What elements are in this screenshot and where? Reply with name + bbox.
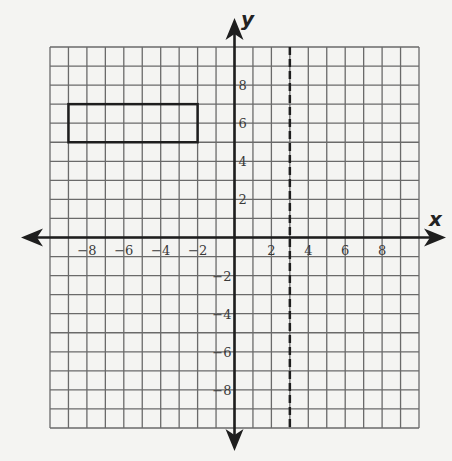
x-tick-label: 6 <box>341 243 349 258</box>
x-tick-label: −8 <box>77 243 96 258</box>
x-tick-label: 4 <box>304 243 312 258</box>
x-tick-label: −6 <box>114 243 133 258</box>
x-tick-label: −2 <box>188 243 207 258</box>
x-tick-label: −4 <box>151 243 170 258</box>
x-tick-label: 8 <box>378 243 386 258</box>
y-tick-label: −2 <box>212 269 231 284</box>
y-tick-label: 4 <box>239 154 247 169</box>
coordinate-plane: x y −8−6−4−224688642−2−4−6−8 <box>0 0 452 461</box>
y-tick-label: 8 <box>239 78 247 93</box>
y-tick-label: 2 <box>239 192 247 207</box>
y-tick-label: −6 <box>212 345 231 360</box>
coordinate-plane-svg: x y −8−6−4−224688642−2−4−6−8 <box>0 0 452 461</box>
y-tick-label: −4 <box>212 307 231 322</box>
y-axis-label: y <box>241 7 255 31</box>
x-axis-label: x <box>428 207 443 231</box>
y-tick-label: 6 <box>239 116 247 131</box>
y-tick-label: −8 <box>212 383 231 398</box>
x-tick-label: 2 <box>267 243 275 258</box>
